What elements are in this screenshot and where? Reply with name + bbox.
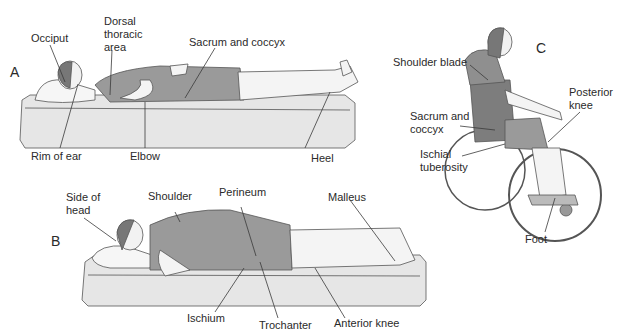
label-trochanter: Trochanter (259, 319, 312, 332)
label-posterior-knee: Posterior knee (569, 86, 613, 112)
panel-c-letter: C (536, 40, 546, 56)
label-sacrum-coccyx-c: Sacrum and coccyx (410, 110, 469, 136)
label-sacrum-coccyx-a: Sacrum and coccyx (189, 36, 285, 49)
label-anterior-knee: Anterior knee (334, 317, 399, 330)
label-shoulder-blade: Shoulder blade (393, 56, 467, 69)
label-side-of-head: Side of head (66, 191, 100, 217)
label-rim-of-ear: Rim of ear (31, 150, 82, 163)
panel-a-letter: A (10, 64, 19, 80)
pressure-points-illustration (0, 0, 619, 336)
label-malleus: Malleus (328, 191, 366, 204)
label-occiput: Occiput (31, 32, 68, 45)
label-perineum: Perineum (219, 186, 266, 199)
panel-b-letter: B (51, 233, 60, 249)
label-elbow: Elbow (130, 150, 160, 163)
label-dorsal-thoracic-area: Dorsal thoracic area (104, 15, 143, 54)
label-ischial-tuberosity: Ischial tuberosity (420, 148, 468, 174)
label-shoulder: Shoulder (148, 190, 192, 203)
label-ischium: Ischium (187, 312, 225, 325)
label-heel: Heel (311, 152, 334, 165)
label-foot: Foot (525, 233, 547, 246)
